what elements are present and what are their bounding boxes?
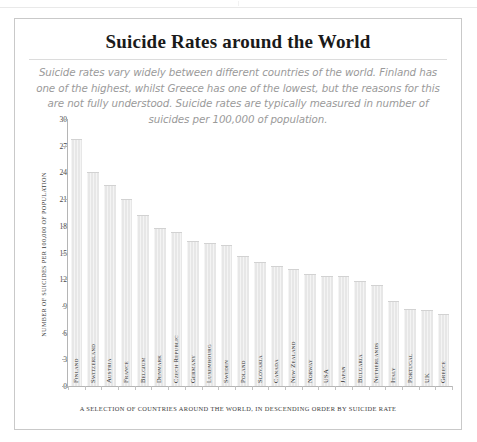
bar-category-label: France (122, 361, 129, 383)
page-top-rule (0, 7, 477, 8)
bar-category-label: Canada (272, 359, 279, 383)
bar-item[interactable]: France (121, 119, 133, 386)
x-axis-tick-mark (302, 386, 303, 390)
bar-item[interactable]: UK (421, 119, 433, 386)
page-top-marker (238, 1, 239, 6)
bar-category-label: Germany (189, 355, 196, 383)
x-axis-tick-mark (101, 386, 102, 390)
bar-category-label: USA (322, 369, 329, 383)
bar-series: FinlandSwitzerlandAustriaFranceBelgiumDe… (68, 119, 452, 386)
x-axis-tick-mark (235, 386, 236, 390)
x-axis-tick-mark (218, 386, 219, 390)
bar-category-label: Norway (306, 359, 313, 383)
x-axis-tick-mark (318, 386, 319, 390)
bar-item[interactable]: Bulgaria (354, 119, 366, 386)
bar-item[interactable]: New Zealand (288, 119, 300, 386)
bar[interactable] (121, 199, 133, 386)
bar-item[interactable]: Luxembourg (204, 119, 216, 386)
plot-area: NUMBER OF SUICIDES PER 100,000 OF POPULA… (15, 19, 461, 429)
bar-category-label: Finland (72, 358, 79, 383)
x-axis-tick-mark (419, 386, 420, 390)
bar-item[interactable]: Canada (271, 119, 283, 386)
bar-item[interactable]: Sweden (221, 119, 233, 386)
y-axis-tick-mark (62, 253, 67, 254)
x-axis-tick-mark (252, 386, 253, 390)
bar-category-label: Italy (389, 367, 396, 383)
bar-category-label: Portugal (406, 354, 413, 383)
x-axis-tick-mark (151, 386, 152, 390)
y-axis-tick-mark (62, 226, 67, 227)
bar-category-label: UK (423, 373, 430, 383)
bar-item[interactable]: Slovakia (254, 119, 266, 386)
bar-category-label: Belgium (139, 357, 146, 383)
x-axis-tick-mark (335, 386, 336, 390)
chart-frame: Suicide Rates around the World Suicide r… (14, 18, 462, 430)
bar-category-label: Austria (105, 358, 112, 383)
bar-category-label: Poland (239, 360, 246, 383)
bar-item[interactable]: Norway (304, 119, 316, 386)
x-axis-tick-mark (285, 386, 286, 390)
bar-category-label: Slovakia (256, 355, 263, 383)
y-axis-tick-mark (62, 306, 67, 307)
bar-item[interactable]: Netherlands (371, 119, 383, 386)
bar-item[interactable]: Denmark (154, 119, 166, 386)
y-axis-tick-mark (62, 359, 67, 360)
bar-category-label: Sweden (222, 360, 229, 383)
x-axis-tick-mark (185, 386, 186, 390)
x-axis-tick-mark (452, 386, 453, 390)
bar[interactable] (104, 185, 116, 386)
x-axis-tick-mark (385, 386, 386, 390)
bar-item[interactable]: Italy (388, 119, 400, 386)
y-axis-tick-mark (62, 172, 67, 173)
bar-item[interactable]: USA (321, 119, 333, 386)
bar-category-label: New Zealand (289, 341, 296, 383)
x-axis-tick-mark (352, 386, 353, 390)
bar-item[interactable]: Czech Republic (171, 119, 183, 386)
bar-item[interactable]: Greece (438, 119, 450, 386)
x-axis-tick-mark (68, 386, 69, 390)
bar[interactable] (71, 139, 83, 386)
x-axis-tick-mark (135, 386, 136, 390)
bar-category-label: Luxembourg (205, 344, 212, 383)
bar-category-label: Bulgaria (356, 354, 363, 383)
y-axis-tick-mark (62, 199, 67, 200)
bar-category-label: Denmark (155, 355, 162, 383)
x-axis-line (67, 386, 452, 387)
y-axis-tick-mark (62, 146, 67, 147)
bar-item[interactable]: Switzerland (87, 119, 99, 386)
bar-category-label: Switzerland (89, 344, 96, 383)
y-axis-tick-mark (62, 386, 67, 387)
bar-item[interactable]: Austria (104, 119, 116, 386)
y-axis-tick-mark (62, 279, 67, 280)
bar-item[interactable]: Portugal (404, 119, 416, 386)
bar-category-label: Netherlands (372, 343, 379, 383)
chart-footer-caption: A SELECTION OF COUNTRIES AROUND THE WORL… (15, 405, 461, 412)
x-axis-tick-mark (202, 386, 203, 390)
bar-item[interactable]: Germany (187, 119, 199, 386)
x-axis-tick-mark (85, 386, 86, 390)
bar-category-label: Czech Republic (172, 335, 179, 383)
x-axis-tick-mark (168, 386, 169, 390)
bar-category-label: Japan (339, 366, 346, 383)
y-axis-tick-mark (62, 333, 67, 334)
y-axis-tick-mark (62, 119, 67, 120)
bar-item[interactable]: Japan (338, 119, 350, 386)
bar-item[interactable]: Finland (71, 119, 83, 386)
x-axis-tick-mark (402, 386, 403, 390)
x-axis-tick-mark (369, 386, 370, 390)
x-axis-tick-mark (118, 386, 119, 390)
x-axis-tick-mark (435, 386, 436, 390)
bar-category-label: Greece (439, 361, 446, 383)
bar-item[interactable]: Poland (237, 119, 249, 386)
x-axis-tick-mark (268, 386, 269, 390)
bar-item[interactable]: Belgium (137, 119, 149, 386)
